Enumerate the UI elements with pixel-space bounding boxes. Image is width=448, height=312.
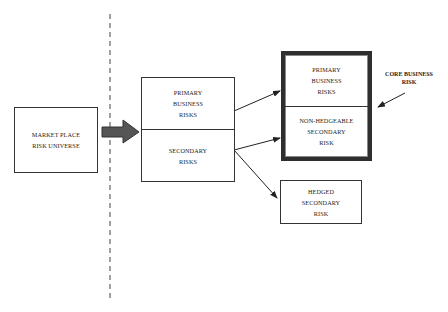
non-hedgeable-secondary-risk-cell: NON-HEDGEABLE SECONDARY RISK (285, 107, 368, 158)
hedged-secondary-risk-box: HEDGED SECONDARY RISK (280, 180, 362, 224)
market-place-risk-universe-box: MARKET PLACE RISK UNIVERSE (14, 107, 98, 173)
market-box-label: MARKET PLACE RISK UNIVERSE (15, 108, 97, 172)
core-business-risk-box: PRIMARY BUSINESS RISKS NON-HEDGEABLE SEC… (281, 51, 372, 161)
arrow-secondary-to-nonhedgeable (234, 138, 280, 150)
primary-business-risks-cell: PRIMARY BUSINESS RISKS (142, 78, 234, 130)
secondary-risks-cell: SECONDARY RISKS (142, 130, 234, 181)
core-primary-business-risks-cell: PRIMARY BUSINESS RISKS (285, 55, 368, 107)
block-arrow-icon (102, 120, 139, 143)
risk-diagram: MARKET PLACE RISK UNIVERSE PRIMARY BUSIN… (0, 0, 448, 312)
arrow-primary-to-core (234, 91, 280, 111)
hedged-box-label: HEDGED SECONDARY RISK (281, 181, 361, 223)
core-business-risk-label: CORE BUSINESS RISK (380, 70, 438, 86)
arrow-core-label-pointer (378, 93, 405, 107)
arrow-secondary-to-hedged (234, 150, 277, 198)
risk-split-box: PRIMARY BUSINESS RISKS SECONDARY RISKS (141, 77, 235, 182)
